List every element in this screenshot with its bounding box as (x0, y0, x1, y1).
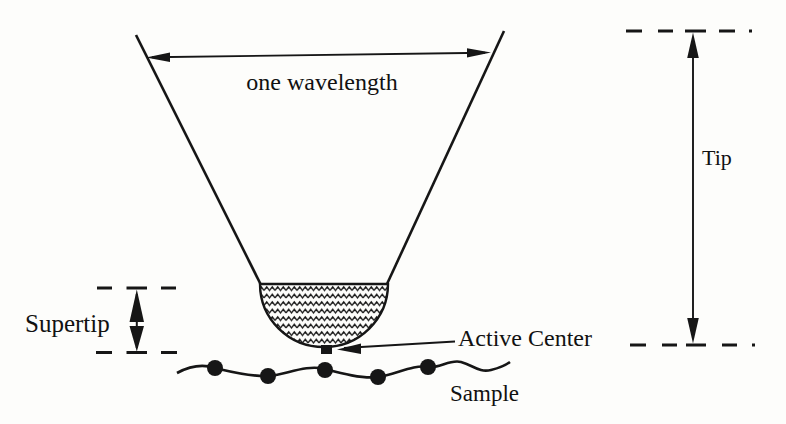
supertip-body (260, 284, 388, 347)
wavelength-arrow-shaft (152, 53, 485, 57)
sample-label: Sample (450, 381, 519, 406)
cone-left-wall (136, 35, 261, 285)
active-center-marker (321, 345, 332, 354)
figure-canvas: one wavelength Active Center Sample (0, 0, 786, 424)
sample-molecule-dot (370, 369, 386, 385)
sample-surface: Sample (177, 359, 519, 406)
cone-right-wall (387, 31, 504, 284)
wavelength-label: one wavelength (246, 69, 397, 95)
sample-molecule-dot (260, 368, 276, 384)
supertip-half-disc (260, 284, 388, 347)
arrowhead-down-icon (687, 318, 699, 344)
supertip-label: Supertip (25, 310, 110, 337)
arrowhead-up-icon (687, 33, 699, 59)
tip-label: Tip (702, 145, 732, 170)
active-center-label: Active Center (458, 325, 592, 351)
tip-dimension: Tip (626, 31, 755, 345)
sample-molecule-dot (317, 362, 333, 378)
sample-wavy-line (177, 361, 510, 377)
supertip-dimension: Supertip (25, 288, 177, 353)
sample-molecule-dot (207, 360, 223, 376)
sample-molecule-dot (420, 359, 436, 375)
wavelength-dimension: one wavelength (146, 48, 491, 95)
arrowhead-up-icon (130, 290, 145, 323)
arrowhead-down-icon (130, 326, 145, 352)
arrowhead-right-icon (467, 48, 491, 57)
diagram-svg: one wavelength Active Center Sample (0, 0, 786, 424)
